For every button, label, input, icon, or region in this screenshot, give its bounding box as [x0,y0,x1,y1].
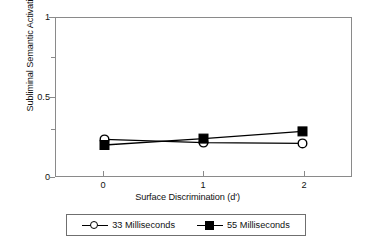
x-tick-2 [304,171,305,177]
x-axis-title: Surface Discrimination (d') [55,192,320,202]
x-tick-label-1: 1 [191,180,215,190]
open-circle-icon [82,219,108,231]
x-tick-label-2: 2 [292,180,316,190]
chart-legend: 33 Milliseconds 55 Milliseconds [66,214,306,236]
chart-figure: Subliminal Semantic Activation (d') Surf… [0,0,371,245]
x-tick-0 [103,171,104,177]
y-tick-major-0 [49,177,55,178]
legend-entry-33ms: 33 Milliseconds [82,219,175,231]
x-tick-1 [203,171,204,177]
y-tick-label-1: 1 [24,12,50,22]
y-tick-label-0: 0 [24,172,50,182]
plot-area [55,17,352,177]
y-tick-label-0.5: 0.5 [24,92,50,102]
legend-label-33ms: 33 Milliseconds [112,220,175,230]
x-tick-label-0: 0 [91,180,115,190]
filled-square-icon [197,219,223,231]
legend-label-55ms: 55 Milliseconds [227,220,290,230]
legend-entry-55ms: 55 Milliseconds [197,219,290,231]
